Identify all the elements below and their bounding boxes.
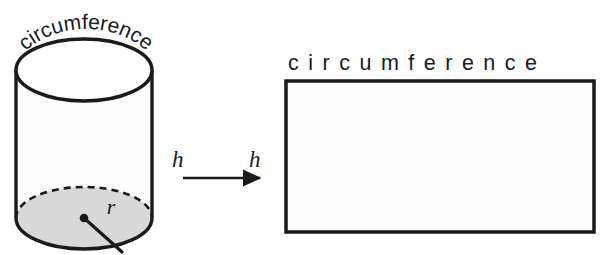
unroll-arrow-group: h h bbox=[172, 147, 261, 178]
height-label-cylinder: h bbox=[172, 147, 184, 172]
cylinder-unroll-diagram: r circumference h h circumference bbox=[0, 0, 610, 255]
height-label-rectangle: h bbox=[249, 147, 261, 172]
unrolled-rectangle-group: circumference bbox=[286, 51, 594, 232]
unrolled-rectangle bbox=[286, 81, 594, 232]
radius-label: r bbox=[107, 194, 116, 219]
cylinder-top-ellipse bbox=[16, 39, 152, 101]
center-point-dot bbox=[80, 214, 89, 223]
cylinder-shape: r circumference bbox=[14, 10, 159, 252]
figure-canvas: r circumference h h circumference bbox=[0, 0, 610, 255]
rectangle-circumference-label: circumference bbox=[288, 51, 547, 75]
